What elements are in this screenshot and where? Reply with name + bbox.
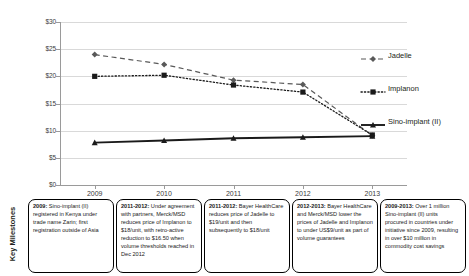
x-axis-tick-label: 2012 <box>280 190 326 197</box>
milestone-box-2: 2011-2012: Under agreement with partners… <box>116 199 202 273</box>
data-point-marker <box>162 73 167 78</box>
milestone-period: 2009-2013: <box>385 203 414 209</box>
data-point-marker <box>231 77 237 83</box>
series-sino-implant-ii <box>92 133 376 145</box>
series-line <box>95 55 373 136</box>
legend-item-jadelle[interactable]: Jadelle <box>360 50 468 60</box>
x-axis-tick-label: 2010 <box>141 190 187 197</box>
legend-label: Jadelle <box>388 51 412 60</box>
data-point-marker <box>161 61 167 67</box>
series-lines <box>60 22 407 185</box>
legend-key-triangle-icon <box>360 116 386 126</box>
data-point-marker <box>300 89 305 94</box>
implant-price-chart: $0$5$10$15$20$25$30 20092010201120122013… <box>0 0 469 276</box>
milestone-box-5: 2009-2013: Over 1 million Sino-implant (… <box>380 199 466 273</box>
y-axis-tick-label: $10 <box>24 127 56 134</box>
x-axis-tick-label: 2011 <box>211 190 257 197</box>
milestone-callout-row: 2009: Sino-implant (II) registered in Ke… <box>28 199 466 273</box>
plot-area <box>60 22 407 185</box>
milestone-box-3: 2011-2012: Bayer HealthCare reduces pric… <box>204 199 290 273</box>
milestone-text: Under agreement with partners, Merck/MSD… <box>121 203 194 257</box>
data-point-marker <box>231 82 236 87</box>
x-axis-tick <box>234 185 235 189</box>
milestone-period: 2011-2012: <box>121 203 149 209</box>
milestone-period: 2012-2013: <box>297 203 326 209</box>
legend-key-diamond-icon <box>360 50 386 60</box>
milestone-box-1: 2009: Sino-implant (II) registered in Ke… <box>28 199 114 273</box>
x-axis-tick <box>372 185 373 189</box>
milestone-text: Over 1 million Sino-implant (II) units p… <box>385 203 458 249</box>
key-milestones-axis-label: Key Milestones <box>8 196 20 272</box>
legend-label: Implanon <box>388 84 419 93</box>
data-point-marker <box>370 56 376 62</box>
x-axis-tick-label: 2009 <box>72 190 118 197</box>
y-axis-tick-label: $20 <box>24 72 56 79</box>
y-axis-tick-label: $5 <box>24 154 56 161</box>
x-axis-tick <box>164 185 165 189</box>
legend-label: Sino-implant (II) <box>388 117 441 126</box>
legend-item-sino-implant-ii[interactable]: Sino-implant (II) <box>360 116 468 126</box>
series-jadelle <box>92 52 376 139</box>
data-point-marker <box>92 74 97 79</box>
y-axis-tick-label: $0 <box>24 181 56 188</box>
milestone-period: 2009: <box>33 203 47 209</box>
chart-legend: JadelleImplanonSino-implant (II) <box>360 50 468 149</box>
legend-key-square-icon <box>360 83 386 93</box>
data-point-marker <box>92 52 98 58</box>
x-axis-tick-label: 2013 <box>349 190 395 197</box>
x-axis-tick <box>95 185 96 189</box>
legend-item-implanon[interactable]: Implanon <box>360 83 468 93</box>
milestone-box-4: 2012-2013: Bayer HealthCare and Merck/MS… <box>292 199 378 273</box>
milestone-period: 2011-2012: <box>209 203 237 209</box>
y-axis-tick-label: $25 <box>24 45 56 52</box>
y-axis-tick-label: $15 <box>24 100 56 107</box>
y-axis-tick-label: $30 <box>24 18 56 25</box>
x-axis-tick <box>303 185 304 189</box>
data-point-marker <box>370 89 375 94</box>
